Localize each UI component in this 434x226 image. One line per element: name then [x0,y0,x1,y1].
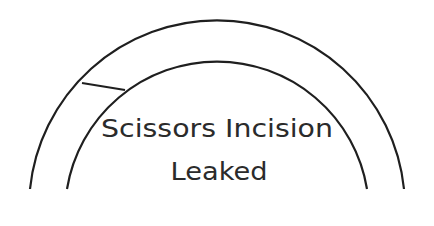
incision-divider-line [82,83,125,90]
diagram-label-line-2: Leaked [171,157,268,186]
incision-diagram: Scissors Incision Leaked [0,0,434,226]
diagram-label-line-1: Scissors Incision [101,114,333,143]
